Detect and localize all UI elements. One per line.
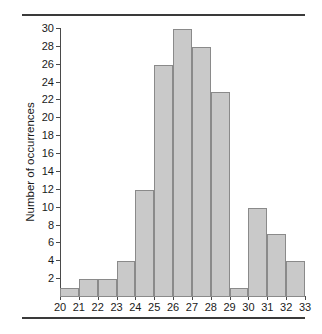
bar-series — [60, 28, 306, 297]
x-axis-tick-label: 28 — [205, 302, 217, 313]
histogram-bar — [230, 288, 249, 297]
histogram-bar — [154, 65, 173, 297]
plot-area: 24681012141618202224262830 2021222324252… — [60, 28, 305, 296]
histogram-bar — [248, 208, 267, 297]
y-axis-title-text: Number of occurrences — [24, 102, 36, 222]
y-axis-tick-label: 18 — [42, 130, 54, 141]
x-axis-tick-label: 22 — [92, 302, 104, 313]
y-axis-tick-label: 24 — [42, 76, 54, 87]
x-axis-tick-label: 23 — [110, 302, 122, 313]
x-axis-tick-label: 30 — [242, 302, 254, 313]
bottom-rule — [22, 317, 305, 319]
y-axis-tick-label: 20 — [42, 112, 54, 123]
histogram-bar — [173, 29, 192, 297]
y-axis-tick-label: 14 — [42, 165, 54, 176]
y-axis-tick-label: 30 — [42, 23, 54, 34]
y-axis-title: Number of occurrences — [22, 28, 38, 296]
x-axis-tick-label: 27 — [186, 302, 198, 313]
y-axis-tick-label: 8 — [48, 219, 54, 230]
y-axis-tick-label: 26 — [42, 58, 54, 69]
x-axis-tick-label: 21 — [73, 302, 85, 313]
x-axis-tick-label: 20 — [54, 302, 66, 313]
histogram-bar — [192, 47, 211, 297]
x-axis-tick-label: 31 — [261, 302, 273, 313]
histogram-bar — [267, 234, 286, 297]
histogram-bar — [98, 279, 117, 297]
histogram-bar — [60, 288, 79, 297]
y-axis-tick-label: 28 — [42, 40, 54, 51]
x-axis-tick-label: 33 — [299, 302, 311, 313]
histogram-bar — [79, 279, 98, 297]
y-axis-tick-label: 4 — [48, 255, 54, 266]
x-axis-tick-label: 32 — [280, 302, 292, 313]
x-axis-tick-label: 25 — [148, 302, 160, 313]
top-rule — [22, 14, 305, 16]
x-axis-tick-label: 26 — [167, 302, 179, 313]
figure: Number of occurrences 246810121416182022… — [0, 0, 322, 334]
y-axis-tick-label: 6 — [48, 237, 54, 248]
figure-caption — [22, 325, 305, 334]
y-axis-tick-label: 12 — [42, 183, 54, 194]
histogram-bar — [286, 261, 305, 297]
histogram-bar — [117, 261, 136, 297]
histogram-bar — [135, 190, 154, 297]
y-axis-tick-label: 16 — [42, 148, 54, 159]
y-axis-tick-label: 10 — [42, 201, 54, 212]
y-axis-tick-label: 2 — [48, 273, 54, 284]
x-axis-tick-label: 24 — [129, 302, 141, 313]
y-axis-tick-label: 22 — [42, 94, 54, 105]
histogram-bar — [211, 92, 230, 297]
x-axis-tick-label: 29 — [223, 302, 235, 313]
